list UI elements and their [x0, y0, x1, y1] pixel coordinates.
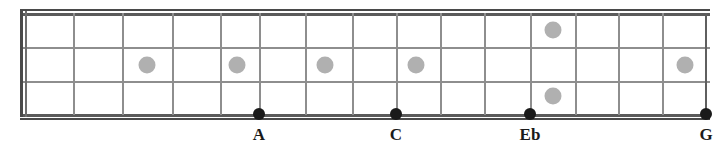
inlay-7-icon: [317, 57, 334, 74]
fret-line-6: [305, 13, 307, 115]
fret-line-7: [352, 13, 354, 115]
inlay-5-icon: [229, 57, 246, 74]
fret-line-8: [396, 13, 398, 115]
fret-line-15: [705, 13, 707, 115]
note-label-a: A: [253, 126, 265, 143]
fret-line-2: [122, 13, 124, 115]
fret-line-3: [172, 13, 174, 115]
note-marker-c[interactable]: [390, 108, 402, 120]
fret-line-11: [530, 13, 532, 115]
fret-line-14: [662, 13, 664, 115]
inlay-9-icon: [408, 57, 425, 74]
note-marker-a[interactable]: [253, 108, 265, 120]
note-marker-g[interactable]: [700, 108, 712, 120]
note-label-c: C: [390, 126, 402, 143]
inlay-12-upper-icon: [545, 22, 562, 39]
inlay-12-lower-icon: [545, 88, 562, 105]
fret-line-5: [259, 13, 261, 115]
fret-line-1: [73, 13, 75, 115]
nut-icon: [20, 11, 23, 117]
fretboard-diagram: ACEbG: [0, 0, 728, 154]
fret-line-10: [484, 13, 486, 115]
note-label-eb: Eb: [520, 126, 541, 143]
fret-line-13: [618, 13, 620, 115]
string-edge-1: [20, 9, 710, 11]
fret-line-9: [440, 13, 442, 115]
nut-inner-icon: [25, 11, 27, 117]
fret-line-4: [220, 13, 222, 115]
note-label-g: G: [699, 126, 712, 143]
inlay-15-icon: [677, 57, 694, 74]
string-edge-4: [20, 118, 710, 120]
note-marker-eb[interactable]: [524, 108, 536, 120]
fret-line-12: [575, 13, 577, 115]
inlay-3-icon: [139, 57, 156, 74]
